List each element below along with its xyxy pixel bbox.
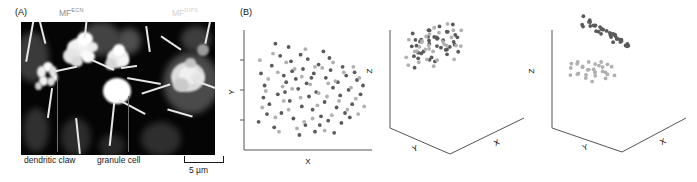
data-point bbox=[420, 40, 424, 44]
data-point bbox=[334, 79, 338, 83]
data-point bbox=[329, 68, 333, 72]
data-point bbox=[586, 68, 590, 72]
data-point bbox=[588, 24, 592, 28]
mf-dips-superscript: DIPS bbox=[184, 7, 198, 13]
data-point bbox=[288, 99, 292, 103]
data-point bbox=[320, 66, 324, 70]
data-point bbox=[310, 76, 314, 80]
data-point bbox=[277, 130, 281, 134]
data-point bbox=[257, 120, 261, 124]
scatter-plot-3d-separated: Z Y X bbox=[534, 22, 694, 170]
axes-3d-separated bbox=[552, 30, 686, 152]
data-point bbox=[352, 65, 356, 69]
data-point bbox=[427, 39, 431, 43]
axes-3d-mixed bbox=[390, 30, 524, 154]
axis-label-z-plot3: Z bbox=[527, 68, 536, 73]
data-point bbox=[453, 33, 457, 37]
data-point bbox=[590, 80, 594, 84]
data-point bbox=[407, 38, 411, 42]
granule-cell-label: granule cell bbox=[97, 156, 140, 165]
data-point bbox=[266, 77, 270, 81]
data-point bbox=[262, 96, 266, 100]
data-point bbox=[340, 121, 344, 125]
data-point bbox=[593, 62, 597, 66]
data-point bbox=[406, 63, 410, 67]
data-point bbox=[311, 117, 315, 121]
data-point bbox=[307, 95, 311, 99]
data-point bbox=[274, 42, 278, 46]
data-point bbox=[459, 28, 463, 32]
data-point bbox=[348, 116, 352, 120]
data-point bbox=[404, 55, 408, 59]
data-point bbox=[456, 50, 460, 54]
scatter-3d-mixed-canvas: Z Y X bbox=[372, 22, 532, 170]
data-point bbox=[618, 38, 622, 42]
data-point bbox=[312, 72, 316, 76]
data-point bbox=[354, 97, 358, 101]
data-point bbox=[335, 106, 339, 110]
data-point bbox=[576, 60, 580, 64]
data-point bbox=[301, 67, 305, 71]
data-point bbox=[446, 22, 450, 26]
data-point bbox=[338, 94, 342, 98]
data-point bbox=[604, 70, 608, 74]
data-point bbox=[439, 46, 443, 50]
data-point bbox=[427, 28, 431, 32]
data-point bbox=[272, 125, 276, 129]
data-point bbox=[423, 48, 427, 52]
data-point bbox=[584, 73, 588, 77]
data-point bbox=[265, 112, 269, 116]
data-point bbox=[413, 66, 417, 70]
data-point bbox=[459, 44, 463, 48]
data-point bbox=[284, 80, 288, 84]
data-point bbox=[611, 40, 615, 44]
data-point bbox=[326, 81, 330, 85]
data-point bbox=[435, 58, 439, 62]
data-point bbox=[304, 123, 308, 127]
data-point bbox=[450, 36, 454, 40]
data-point bbox=[318, 123, 322, 127]
data-point bbox=[438, 25, 442, 29]
scatter-plot-2d-xy: X Y bbox=[235, 22, 375, 170]
axis-label-x-plot1: X bbox=[305, 157, 311, 166]
data-point bbox=[604, 77, 608, 81]
mf-ecn-base: MF bbox=[59, 8, 71, 18]
data-point bbox=[343, 111, 347, 115]
data-point bbox=[432, 64, 436, 68]
data-point bbox=[412, 54, 416, 58]
data-point bbox=[346, 108, 350, 112]
data-point bbox=[576, 72, 580, 76]
data-point bbox=[445, 52, 449, 56]
mf-dips-label: MFDIPS bbox=[172, 8, 198, 17]
data-point bbox=[271, 52, 275, 56]
mf-ecn-superscript: ECN bbox=[71, 7, 83, 13]
data-point bbox=[290, 87, 294, 91]
data-point bbox=[263, 84, 267, 88]
data-point bbox=[293, 67, 297, 71]
data-point bbox=[362, 105, 366, 109]
data-point bbox=[337, 99, 341, 103]
data-point bbox=[592, 67, 596, 71]
data-point bbox=[452, 57, 456, 61]
data-point bbox=[411, 32, 415, 36]
data-point bbox=[424, 35, 428, 39]
data-point bbox=[427, 43, 431, 47]
data-point bbox=[274, 116, 278, 120]
data-point bbox=[437, 31, 441, 35]
data-point bbox=[569, 66, 573, 70]
data-point bbox=[344, 74, 348, 78]
axis-label-y-plot2: Y bbox=[411, 143, 420, 154]
axis-label-z-plot2: Z bbox=[365, 68, 374, 73]
axis-label-x-plot3: X bbox=[658, 136, 668, 147]
panel-a: (A) MFECN MFDIPS bbox=[0, 0, 232, 182]
leader-line-granule-cell bbox=[128, 96, 129, 152]
data-point bbox=[282, 99, 286, 103]
data-point bbox=[292, 117, 296, 121]
data-point bbox=[294, 77, 298, 81]
data-point bbox=[599, 60, 603, 64]
data-point bbox=[258, 58, 262, 62]
data-point bbox=[410, 44, 414, 48]
data-point bbox=[270, 64, 274, 68]
data-point bbox=[284, 61, 288, 65]
data-point bbox=[581, 65, 585, 69]
